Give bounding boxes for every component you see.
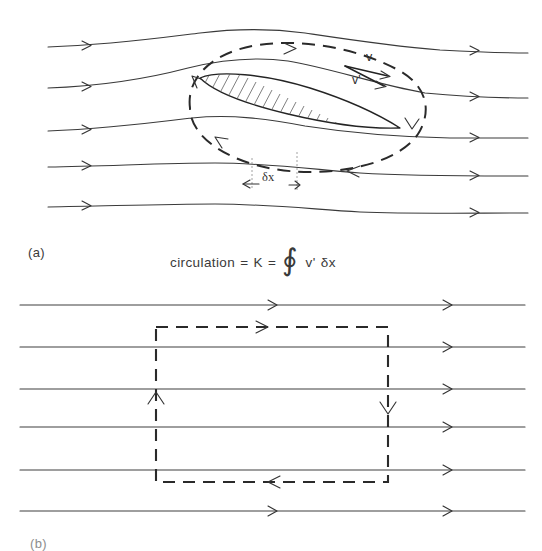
equation-symbol-k: K xyxy=(253,256,262,270)
circulation-equation: circulation = K = ∮ v' δx xyxy=(170,248,336,278)
streamline-arrow-a-1r xyxy=(470,46,479,55)
panel-a-streamlines xyxy=(48,30,528,217)
equation-integrand: v' xyxy=(306,256,316,270)
streamline-arrow-a-5r xyxy=(470,208,479,217)
aerofoil-outline xyxy=(200,74,400,128)
streamline-arrow-a-4l xyxy=(82,161,91,170)
loop-arrow-top xyxy=(284,43,296,54)
streamline-a-1 xyxy=(48,30,528,53)
equation-equals-2: = xyxy=(268,256,276,270)
streamline-arrow-a-5l xyxy=(82,201,91,210)
loop-arrow-right xyxy=(405,118,419,129)
aerofoil xyxy=(196,62,400,192)
contour-integral-icon: ∮ xyxy=(282,245,298,275)
streamline-a-4 xyxy=(48,163,528,176)
streamline-a-5 xyxy=(48,204,528,213)
velocity-label-v: v xyxy=(366,50,372,64)
equation-differential: δx xyxy=(321,256,336,270)
streamline-arrow-a-2l xyxy=(82,82,91,91)
equation-lhs: circulation xyxy=(170,256,235,270)
loop-arrow-bottom xyxy=(347,166,360,177)
velocity-label-v-prime: v' xyxy=(352,73,361,87)
panel-b-streamlines xyxy=(20,300,525,516)
streamline-a-3 xyxy=(48,117,528,138)
loop-arrow-lower-left xyxy=(215,137,228,148)
deltax-label: δx xyxy=(262,170,274,185)
rectangular-circuit-path xyxy=(156,327,388,482)
panel-b-label: (b) xyxy=(30,536,47,551)
rectangular-circuit xyxy=(148,321,396,488)
equation-equals-1: = xyxy=(240,256,248,270)
panel-a-label: (a) xyxy=(28,245,45,260)
